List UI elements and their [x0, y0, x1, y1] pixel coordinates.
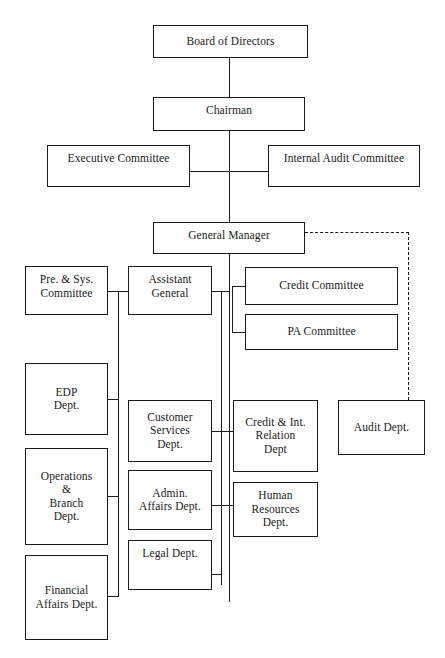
org-node-label-exec: Executive Committee: [48, 146, 189, 166]
org-node-presys[interactable]: Pre. & Sys. Committee: [25, 266, 108, 315]
org-node-board[interactable]: Board of Directors: [153, 25, 308, 58]
org-node-label-credit-c: Credit Committee: [246, 279, 397, 293]
org-node-label-chairman: Chairman: [154, 98, 304, 118]
org-node-label-presys: Pre. & Sys. Committee: [26, 267, 107, 300]
org-node-hr[interactable]: Human Resources Dept.: [233, 482, 318, 537]
connector-edp-to-left-spine: [108, 399, 119, 400]
connector-asstgen-drop: [221, 291, 222, 585]
org-node-ops[interactable]: Operations & Branch Dept.: [25, 448, 108, 545]
org-node-label-board: Board of Directors: [154, 35, 307, 49]
connector-credit-cmte-stub: [232, 286, 246, 287]
org-node-admin[interactable]: Admin. Affairs Dept.: [128, 470, 212, 530]
connector-board-to-chairman: [229, 58, 230, 97]
org-node-financial[interactable]: Financial Affairs Dept.: [25, 555, 108, 640]
connector-auditcmte-to-spine: [229, 171, 268, 172]
org-node-label-admin: Admin. Affairs Dept.: [129, 487, 211, 514]
org-node-edp[interactable]: EDP Dept.: [25, 363, 108, 435]
connector-admin-to-spine: [212, 505, 222, 506]
connector-ops-to-left-spine: [108, 496, 119, 497]
org-node-credit-c[interactable]: Credit Committee: [245, 267, 398, 305]
connector-gm-to-audit-dept-horizontal: [305, 232, 409, 233]
org-node-label-asstgen: Assistant General: [129, 267, 211, 300]
org-node-cust[interactable]: Customer Services Dept.: [128, 400, 212, 462]
org-node-label-gm: General Manager: [154, 223, 304, 243]
org-node-pa-c[interactable]: PA Committee: [245, 314, 398, 350]
org-node-chairman[interactable]: Chairman: [153, 97, 305, 131]
org-node-creditint[interactable]: Credit & Int. Relation Dept: [233, 400, 318, 472]
connector-exec-to-spine: [190, 171, 230, 172]
org-node-label-legal: Legal Dept.: [129, 541, 211, 561]
org-node-asstgen[interactable]: Assistant General: [128, 266, 212, 315]
connector-pa-cmte-stub: [232, 332, 246, 333]
org-node-audit-cmte[interactable]: Internal Audit Committee: [268, 145, 420, 187]
org-node-label-auditdept: Audit Dept.: [339, 421, 424, 435]
org-node-exec[interactable]: Executive Committee: [47, 145, 190, 187]
connector-gm-to-audit-dept-vertical: [408, 232, 409, 400]
org-node-label-cust: Customer Services Dept.: [129, 411, 211, 452]
connector-left-spine: [118, 291, 119, 596]
org-chart-canvas: Board of DirectorsChairmanExecutive Comm…: [0, 0, 445, 658]
connector-gm-to-lower-spine: [229, 254, 230, 602]
org-node-label-edp: EDP Dept.: [26, 386, 107, 413]
connector-cust-to-spine: [212, 431, 222, 432]
org-node-legal[interactable]: Legal Dept.: [128, 540, 212, 590]
org-node-label-audit-cmte: Internal Audit Committee: [269, 146, 419, 166]
org-node-label-financial: Financial Affairs Dept.: [26, 584, 107, 611]
org-node-label-creditint: Credit & Int. Relation Dept: [234, 416, 317, 457]
connector-financial-to-left-spine: [108, 596, 119, 597]
org-node-label-ops: Operations & Branch Dept.: [26, 470, 107, 524]
connector-chairman-to-spine: [229, 131, 230, 222]
org-node-auditdept[interactable]: Audit Dept.: [338, 400, 425, 455]
org-node-label-hr: Human Resources Dept.: [234, 489, 317, 530]
org-node-label-pa-c: PA Committee: [246, 325, 397, 339]
connector-committee-riser: [232, 286, 233, 333]
connector-legal-to-spine: [212, 574, 222, 575]
org-node-gm[interactable]: General Manager: [153, 222, 305, 254]
